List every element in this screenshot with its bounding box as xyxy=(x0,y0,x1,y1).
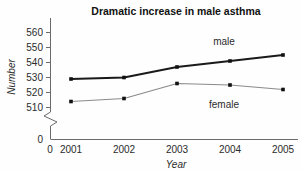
x-tick-label-2004: 2004 xyxy=(219,144,242,155)
y-tick-label-530: 530 xyxy=(26,72,43,83)
chart-title: Dramatic increase in male asthma xyxy=(91,5,260,17)
y-tick-label-560: 560 xyxy=(26,27,43,38)
data-point-male-2002 xyxy=(122,76,126,80)
x-tick-label-2002: 2002 xyxy=(113,144,136,155)
y-tick-label-0: 0 xyxy=(37,134,43,145)
data-point-female-2004 xyxy=(228,83,232,87)
data-point-male-2001 xyxy=(69,77,73,81)
data-point-female-2005 xyxy=(281,88,285,92)
y-axis-ticks xyxy=(46,33,51,108)
x-tick-label-2003: 2003 xyxy=(166,144,189,155)
y-tick-label-520: 520 xyxy=(26,87,43,98)
x-tick-label-2005: 2005 xyxy=(272,144,295,155)
y-tick-label-510: 510 xyxy=(26,102,43,113)
data-point-female-2002 xyxy=(122,97,126,101)
series-annotation-male: male xyxy=(213,36,235,47)
data-point-female-2001 xyxy=(69,100,73,104)
y-tick-label-550: 550 xyxy=(26,42,43,53)
series-markers-male xyxy=(69,53,285,81)
y-tick-label-540: 540 xyxy=(26,57,43,68)
series-line-female xyxy=(71,84,283,102)
data-point-female-2003 xyxy=(175,82,179,86)
y-axis-break-icon xyxy=(44,107,57,139)
x-tick-label-2001: 2001 xyxy=(60,144,83,155)
data-point-male-2003 xyxy=(175,65,179,69)
data-point-male-2005 xyxy=(281,53,285,57)
series-annotation-female: female xyxy=(209,99,239,110)
chart-container: Dramatic increase in male asthma 560 550… xyxy=(0,0,303,171)
y-axis-title: Number xyxy=(6,59,17,95)
data-point-male-2004 xyxy=(228,59,232,63)
asthma-line-chart: Dramatic increase in male asthma 560 550… xyxy=(0,0,303,171)
x-tick-label-0: 0 xyxy=(47,144,53,155)
x-axis-title: Year xyxy=(166,159,187,170)
